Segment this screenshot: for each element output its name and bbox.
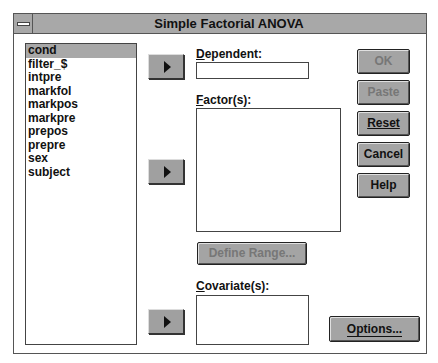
dependent-field[interactable] bbox=[196, 62, 309, 79]
ok-button[interactable]: OK bbox=[357, 49, 410, 74]
list-item[interactable]: sex bbox=[26, 152, 136, 166]
factors-label: Factor(s): bbox=[196, 93, 251, 107]
list-item[interactable]: markpos bbox=[26, 98, 136, 112]
dependent-label: Dependent: bbox=[196, 47, 262, 61]
help-button[interactable]: Help bbox=[357, 173, 410, 198]
cancel-button[interactable]: Cancel bbox=[357, 142, 410, 167]
list-item[interactable]: markfol bbox=[26, 85, 136, 99]
dialog-window: Simple Factorial ANOVA cond filter_$ int… bbox=[13, 13, 427, 354]
list-item[interactable]: intpre bbox=[26, 71, 136, 85]
covariates-label: Covariate(s): bbox=[196, 279, 269, 293]
list-item[interactable]: prepos bbox=[26, 125, 136, 139]
list-item[interactable]: prepre bbox=[26, 139, 136, 153]
covariates-list[interactable] bbox=[196, 295, 309, 345]
variable-list[interactable]: cond filter_$ intpre markfol markpos mar… bbox=[25, 43, 137, 345]
list-item[interactable]: markpre bbox=[26, 112, 136, 126]
list-item[interactable]: subject bbox=[26, 166, 136, 180]
move-to-factors-button[interactable] bbox=[148, 159, 184, 184]
list-item[interactable]: cond bbox=[26, 44, 136, 58]
window-title: Simple Factorial ANOVA bbox=[32, 16, 426, 31]
paste-button[interactable]: Paste bbox=[357, 80, 410, 105]
move-to-covariates-button[interactable] bbox=[148, 309, 184, 334]
move-to-dependent-button[interactable] bbox=[148, 54, 184, 79]
system-menu-icon[interactable] bbox=[14, 14, 33, 33]
list-item[interactable]: filter_$ bbox=[26, 58, 136, 72]
reset-button[interactable]: Reset bbox=[357, 111, 410, 136]
options-button[interactable]: Options... bbox=[329, 316, 420, 342]
factors-list[interactable] bbox=[196, 108, 341, 232]
title-bar: Simple Factorial ANOVA bbox=[14, 14, 426, 34]
define-range-button[interactable]: Define Range... bbox=[197, 242, 307, 265]
